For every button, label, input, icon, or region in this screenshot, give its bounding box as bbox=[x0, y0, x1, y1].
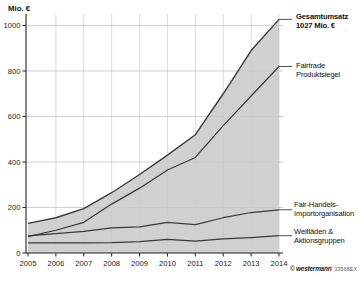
x-tick-label: 2012 bbox=[215, 259, 232, 268]
y-tick-label: 800 bbox=[8, 67, 21, 76]
x-tick-label: 2005 bbox=[20, 259, 37, 268]
y-tick-label: 200 bbox=[8, 203, 21, 212]
publisher-logo: © westermann bbox=[290, 265, 331, 272]
fair-trade-turnover-chart: Mio. € 020040060080010002005200620072008… bbox=[0, 0, 363, 281]
y-tick-label: 0 bbox=[16, 249, 20, 258]
total-area bbox=[28, 19, 279, 253]
annotation-gesamtumsatz-line2: 1027 Mio. € bbox=[296, 21, 348, 30]
annotation-fairtrade-line2: Produktsiegel bbox=[296, 70, 340, 79]
annotation-importorganisation-line2: Importorganisation bbox=[294, 209, 354, 218]
x-tick-label: 2011 bbox=[187, 259, 203, 268]
x-tick-label: 2007 bbox=[75, 259, 92, 268]
x-tick-label: 2009 bbox=[131, 259, 148, 268]
annotation-fairtrade-line1: Fairtrade bbox=[296, 61, 340, 70]
annotation-weltlaeden-line1: Weltläden & bbox=[294, 227, 345, 236]
y-tick-label: 1000 bbox=[4, 21, 21, 30]
x-tick-label: 2014 bbox=[271, 259, 288, 268]
leader-lines bbox=[279, 19, 292, 235]
y-tick-label: 600 bbox=[8, 112, 21, 121]
annotation-weltlaeden: Weltläden & Aktionsgruppen bbox=[294, 227, 345, 245]
annotation-gesamtumsatz: Gesamtumsatz 1027 Mio. € bbox=[296, 12, 348, 30]
x-tick-label: 2013 bbox=[243, 259, 260, 268]
annotation-gesamtumsatz-line1: Gesamtumsatz bbox=[296, 12, 348, 21]
annotation-importorganisation-line1: Fair-Handels- bbox=[294, 200, 354, 209]
y-tick-label: 400 bbox=[8, 158, 21, 167]
annotation-weltlaeden-line2: Aktionsgruppen bbox=[294, 236, 345, 245]
area-fill bbox=[28, 19, 279, 253]
x-tick-label: 2008 bbox=[103, 259, 120, 268]
annotation-importorganisation: Fair-Handels- Importorganisation bbox=[294, 200, 354, 218]
y-axis-unit-label: Mio. € bbox=[8, 4, 31, 13]
x-tick-label: 2010 bbox=[159, 259, 176, 268]
source-footer: © westermann 33568EX bbox=[290, 265, 357, 272]
annotation-fairtrade: Fairtrade Produktsiegel bbox=[296, 61, 340, 79]
x-tick-label: 2006 bbox=[47, 259, 64, 268]
figure-code: 33568EX bbox=[334, 266, 357, 272]
